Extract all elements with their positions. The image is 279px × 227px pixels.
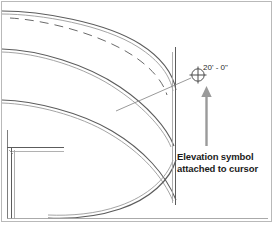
left-wall-horizontal <box>7 148 64 155</box>
elevation-value-label: 20' - 0" <box>203 63 228 72</box>
callout-caption: Elevation symbol attached to cursor <box>177 151 273 174</box>
callout-caption-line2: attached to cursor <box>177 163 273 175</box>
lower-arc <box>2 100 176 201</box>
cad-drawing <box>0 0 279 227</box>
upper-dashed-arc <box>10 18 167 95</box>
left-wall-vertical <box>8 130 15 219</box>
callout-caption-line1: Elevation symbol <box>177 151 273 163</box>
leader-line <box>116 78 191 111</box>
figure-container: 20' - 0" Elevation symbol attached to cu… <box>0 0 279 227</box>
callout-arrow-icon <box>201 86 211 146</box>
right-vertical-wall-edge <box>173 47 176 205</box>
upper-outer-arc <box>2 11 176 91</box>
middle-arc <box>2 49 174 147</box>
